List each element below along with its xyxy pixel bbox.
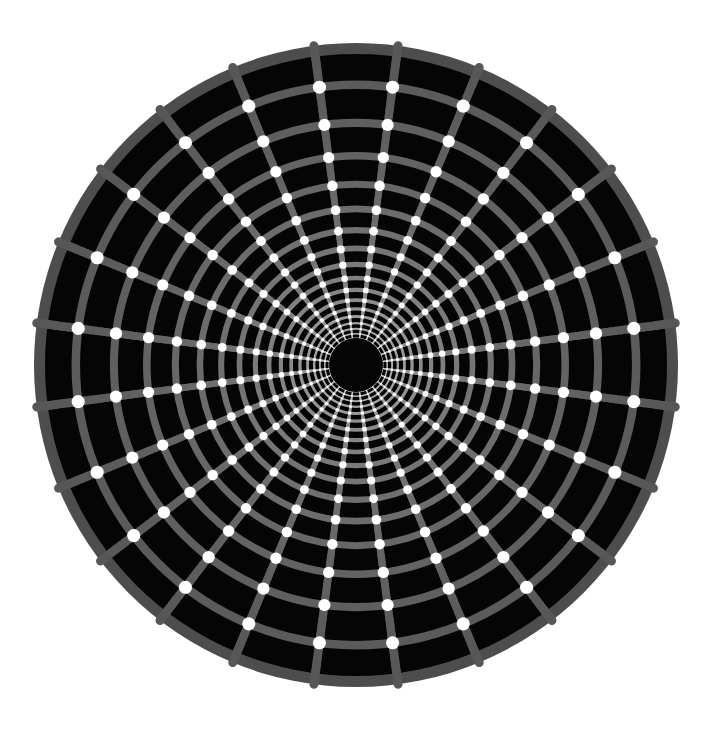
intersection-dot — [236, 346, 244, 354]
intersection-dot — [542, 212, 554, 224]
intersection-dot — [590, 390, 602, 402]
intersection-dot — [452, 348, 459, 355]
intersection-dot — [245, 443, 254, 452]
intersection-dot — [316, 334, 320, 338]
intersection-dot — [363, 437, 369, 443]
intersection-dot — [127, 529, 140, 542]
intersection-dot — [446, 236, 456, 246]
intersection-dot — [366, 461, 373, 468]
intersection-dot — [361, 315, 365, 319]
intersection-dot — [393, 393, 397, 397]
intersection-dot — [196, 340, 206, 350]
intersection-dot — [574, 266, 586, 278]
intersection-dot — [143, 332, 154, 343]
intersection-dot — [341, 276, 347, 282]
intersection-dot — [298, 370, 302, 374]
intersection-dot — [350, 400, 352, 402]
intersection-dot — [327, 181, 338, 192]
intersection-dot — [432, 300, 439, 307]
intersection-dot — [375, 415, 379, 419]
illusion-stage: Concentric Polar Grid Optical Illusion B… — [0, 0, 713, 739]
intersection-dot — [396, 369, 399, 372]
intersection-dot — [468, 376, 476, 384]
intersection-dot — [284, 333, 290, 339]
intersection-dot — [369, 330, 371, 332]
intersection-dot — [446, 484, 456, 494]
intersection-dot — [391, 268, 398, 275]
intersection-dot — [405, 402, 410, 407]
intersection-dot — [227, 455, 237, 465]
intersection-dot — [433, 328, 439, 334]
intersection-dot — [298, 356, 302, 360]
intersection-dot — [218, 378, 227, 387]
intersection-dot — [542, 506, 554, 518]
intersection-dot — [203, 551, 215, 563]
intersection-dot — [530, 336, 541, 347]
intersection-dot — [313, 369, 316, 372]
intersection-dot — [475, 265, 485, 275]
intersection-dot — [406, 384, 410, 388]
intersection-dot — [384, 325, 388, 329]
intersection-dot — [399, 422, 405, 428]
intersection-dot — [423, 268, 431, 276]
intersection-dot — [309, 345, 313, 349]
intersection-dot — [184, 487, 195, 498]
intersection-dot — [459, 278, 468, 287]
intersection-dot — [324, 293, 330, 299]
intersection-dot — [127, 188, 140, 201]
intersection-dot — [457, 617, 470, 630]
intersection-dot — [343, 288, 349, 294]
intersection-dot — [374, 181, 385, 192]
intersection-dot — [319, 369, 321, 371]
intersection-dot — [372, 515, 382, 525]
intersection-dot — [398, 329, 402, 333]
intersection-dot — [420, 527, 431, 538]
intersection-dot — [388, 389, 391, 392]
intersection-dot — [439, 350, 445, 356]
intersection-dot — [203, 167, 215, 179]
intersection-dot — [284, 391, 290, 397]
intersection-dot — [360, 405, 363, 408]
intersection-dot — [257, 583, 269, 595]
intersection-dot — [259, 400, 266, 407]
intersection-dot — [388, 318, 392, 322]
intersection-dot — [313, 636, 326, 649]
intersection-dot — [386, 368, 388, 370]
intersection-dot — [270, 166, 281, 177]
intersection-dot — [362, 427, 367, 432]
intersection-dot — [307, 302, 313, 308]
intersection-dot — [359, 333, 361, 335]
intersection-dot — [445, 400, 452, 407]
intersection-dot — [397, 469, 405, 477]
intersection-dot — [333, 335, 335, 337]
intersection-dot — [324, 432, 330, 438]
intersection-dot — [314, 454, 321, 461]
intersection-dot — [316, 393, 320, 397]
intersection-dot — [227, 309, 236, 318]
intersection-dot — [452, 375, 459, 382]
intersection-dot — [293, 408, 299, 414]
intersection-dot — [196, 381, 206, 391]
intersection-dot — [393, 334, 397, 338]
intersection-dot — [302, 384, 306, 388]
intersection-dot — [319, 281, 325, 287]
intersection-dot — [241, 503, 252, 514]
intersection-dot — [307, 253, 315, 261]
intersection-dot — [336, 339, 338, 341]
intersection-dot — [267, 373, 273, 379]
intersection-dot — [259, 290, 267, 298]
intersection-dot — [444, 432, 452, 440]
intersection-dot — [457, 100, 470, 113]
intersection-dot — [72, 322, 85, 335]
intersection-dot — [269, 468, 278, 477]
intersection-dot — [157, 439, 168, 450]
intersection-dot — [413, 408, 419, 414]
intersection-dot — [391, 359, 393, 361]
intersection-dot — [184, 429, 195, 440]
intersection-dot — [460, 316, 468, 324]
intersection-dot — [343, 335, 345, 337]
intersection-dot — [386, 360, 388, 362]
intersection-dot — [485, 343, 494, 352]
intersection-dot — [398, 397, 402, 401]
intersection-dot — [439, 373, 445, 379]
